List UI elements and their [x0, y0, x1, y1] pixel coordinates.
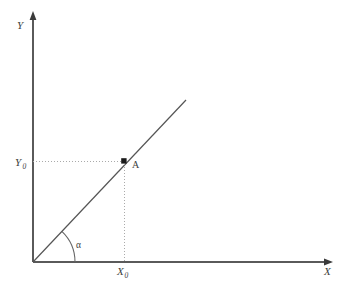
point-a-label: A [132, 159, 140, 170]
angle-arc [62, 231, 75, 262]
x-zero-label-subscript: 0 [125, 271, 129, 280]
angle-alpha-label: α [76, 240, 81, 250]
y-zero-label-subscript: 0 [23, 162, 27, 171]
arrow-up-icon [30, 11, 37, 20]
coordinate-plot: Y X Y 0 X 0 A α [0, 0, 346, 287]
x-axis-label: X [323, 265, 332, 277]
figure-canvas: Y X Y 0 X 0 A α [0, 0, 346, 287]
ray-line [33, 100, 186, 262]
y-axis-label: Y [17, 19, 25, 31]
point-a-marker [121, 158, 126, 163]
